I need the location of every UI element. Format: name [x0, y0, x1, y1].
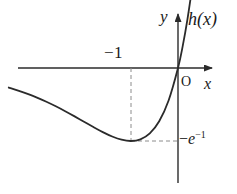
- y-tick-label-minimum: −e−1: [179, 130, 206, 147]
- function-curve-label: h(x): [188, 10, 217, 28]
- function-graph-figure: y x O h(x) −1 −e−1: [0, 0, 237, 194]
- exponent-minus-one: −1: [195, 129, 206, 140]
- minus-sign: −: [179, 130, 188, 147]
- y-axis-label: y: [160, 8, 168, 25]
- graph-canvas: [0, 0, 237, 194]
- x-axis-label: x: [204, 76, 211, 92]
- x-tick-label-minus-one: −1: [104, 44, 123, 61]
- origin-label: O: [181, 75, 191, 89]
